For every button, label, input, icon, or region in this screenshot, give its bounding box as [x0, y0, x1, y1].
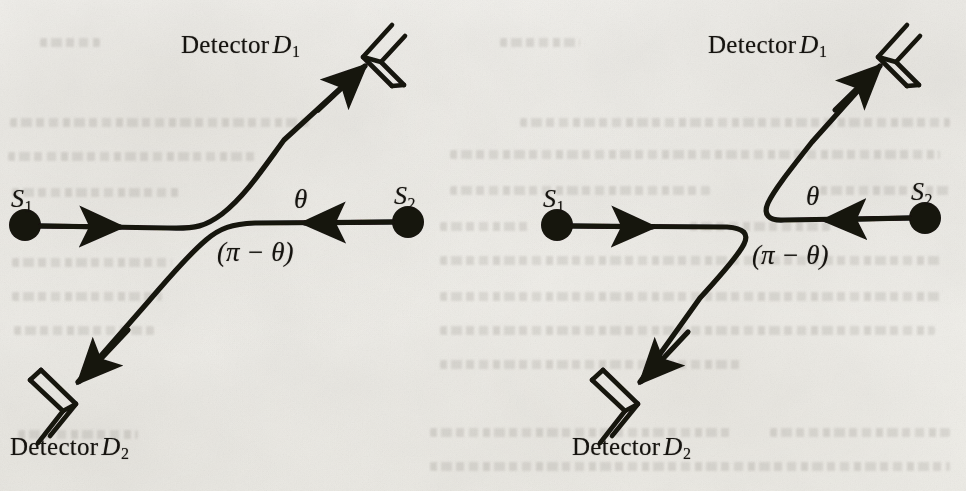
arrow-into-d1-left	[318, 67, 364, 110]
angle-theta-label-right: θ	[806, 183, 819, 210]
arrow-s2-left	[305, 222, 392, 223]
source-s2-label-left: S2	[394, 183, 416, 212]
arrow-s1-left	[41, 226, 120, 227]
trajectory-s2-to-d1-right	[766, 66, 909, 220]
detector-d2-symbol-text-right: D2	[660, 432, 691, 461]
angle-pi-minus-theta-label-left: (π − θ)	[217, 239, 294, 266]
arrow-into-d2-right	[642, 332, 688, 381]
detector-d1-symbol-text-right: D1	[796, 30, 827, 59]
detector-d1-symbol-right	[878, 25, 920, 86]
arrow-s2-right	[826, 218, 909, 220]
detector-d2-label-left: DetectorD2	[10, 434, 129, 462]
detector-d2-symbol-text-left: D2	[98, 432, 129, 461]
trajectory-s1-to-d1-left	[41, 66, 365, 228]
arrow-into-d2-left	[80, 330, 128, 381]
source-s1-label-left: S1	[11, 186, 33, 215]
angle-theta-label-left: θ	[294, 186, 307, 213]
source-s2-label-right: S2	[911, 179, 933, 208]
source-s1-label-right: S1	[543, 186, 565, 215]
detector-d1-label-left: DetectorD1	[181, 32, 300, 60]
trajectory-s1-to-d2-right	[573, 226, 746, 382]
arrow-into-d1-right	[835, 67, 879, 110]
detector-d2-label-right: DetectorD2	[572, 434, 691, 462]
detector-d1-symbol-text-left: D1	[269, 30, 300, 59]
detector-d1-symbol-left	[363, 25, 405, 86]
detector-d1-label-right: DetectorD1	[708, 32, 827, 60]
arrow-s1-right	[573, 226, 652, 227]
angle-pi-minus-theta-label-right: (π − θ)	[752, 242, 829, 269]
figure-page: DetectorD1 DetectorD2 S1 S2 θ (π − θ) De…	[0, 0, 966, 491]
